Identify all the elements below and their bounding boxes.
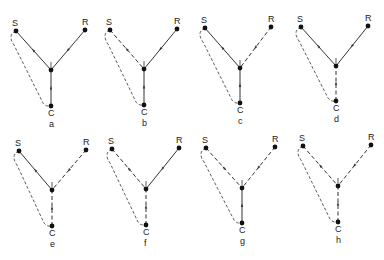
network-diagram-panel-h: S R C h: [288, 130, 384, 260]
node-label-c: C: [335, 225, 342, 234]
node-label-c: C: [237, 106, 244, 115]
node-i: [144, 187, 149, 192]
node-label-s: S: [108, 137, 114, 146]
node-label-s: S: [12, 19, 18, 28]
node-label-c: C: [141, 108, 148, 117]
diagram-graphic: [0, 130, 96, 260]
node-s: [301, 144, 306, 149]
node-i: [336, 184, 341, 189]
arrow-icon: [50, 86, 52, 90]
node-i: [238, 66, 243, 71]
arrow-icon: [335, 81, 337, 85]
node-s: [299, 25, 304, 30]
node-r: [369, 143, 374, 148]
arrow-icon: [337, 202, 339, 206]
network-diagram-panel-a: S R C a: [0, 0, 96, 130]
node-label-r: R: [174, 17, 181, 26]
panel-caption: f: [144, 239, 147, 248]
s-c-loop-edge: [201, 148, 242, 223]
s-c-loop-edge: [298, 146, 338, 222]
panel-caption: b: [142, 119, 147, 128]
node-label-r: R: [272, 135, 279, 144]
node-i: [240, 186, 245, 191]
node-i: [50, 188, 55, 193]
node-label-s: S: [202, 136, 208, 145]
node-s: [203, 26, 208, 31]
network-diagram-panel-e: S R C e: [0, 130, 96, 260]
arrow-icon: [143, 85, 145, 89]
node-r: [175, 27, 180, 32]
node-label-s: S: [297, 15, 303, 24]
arrow-icon: [257, 166, 260, 170]
node-label-c: C: [333, 104, 340, 113]
s-c-loop-edge: [296, 27, 336, 101]
s-c-loop-edge: [105, 30, 144, 105]
panel-caption: a: [49, 120, 54, 129]
node-label-r: R: [368, 133, 375, 142]
arrow-icon: [51, 206, 53, 210]
s-c-loop-edge: [11, 31, 51, 106]
network-diagram-panel-d: S R C d: [288, 0, 384, 130]
panel-caption: g: [240, 237, 245, 246]
arrow-icon: [241, 203, 243, 207]
network-diagram-panel-b: S R C b: [96, 0, 192, 130]
arrow-icon: [68, 168, 71, 172]
node-label-s: S: [201, 16, 207, 25]
node-label-c: C: [239, 226, 246, 235]
network-diagram-panel-g: S R C g: [192, 130, 288, 260]
node-label-r: R: [365, 14, 372, 23]
node-r: [273, 145, 278, 150]
s-c-loop-edge: [200, 28, 240, 103]
node-r: [366, 24, 371, 29]
node-label-r: R: [82, 18, 89, 27]
node-r: [177, 146, 182, 151]
arrow-icon: [254, 46, 257, 50]
node-label-s: S: [15, 139, 21, 148]
node-label-s: S: [299, 134, 305, 143]
s-c-loop-edge: [107, 149, 146, 225]
node-s: [204, 146, 209, 151]
node-s: [108, 28, 113, 33]
network-diagram-panel-f: S R C f: [96, 130, 192, 260]
node-s: [110, 147, 115, 152]
node-i: [334, 64, 339, 69]
arrow-icon: [239, 83, 241, 87]
network-diagram-panel-c: S R C c: [192, 0, 288, 130]
s-c-loop-edge: [14, 151, 52, 226]
node-label-c: C: [49, 229, 56, 238]
node-label-r: R: [176, 136, 183, 145]
node-label-s: S: [106, 18, 112, 27]
panel-caption: h: [336, 236, 341, 245]
node-s: [14, 29, 19, 34]
node-label-r: R: [268, 15, 275, 24]
arrow-icon: [353, 164, 356, 168]
node-i: [142, 67, 147, 72]
panel-caption: e: [50, 240, 55, 249]
arrow-icon: [145, 205, 147, 209]
node-r: [83, 28, 88, 33]
panel-caption: c: [238, 117, 243, 126]
panel-caption: d: [334, 115, 339, 124]
node-r: [269, 25, 274, 30]
node-label-r: R: [83, 138, 90, 147]
node-label-c: C: [48, 109, 55, 118]
node-i: [49, 68, 54, 73]
node-s: [17, 149, 22, 154]
node-r: [84, 148, 89, 153]
node-label-c: C: [143, 228, 150, 237]
